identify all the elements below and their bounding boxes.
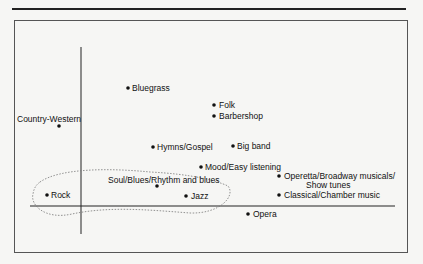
label-opera: Opera xyxy=(253,209,277,219)
label-soul-blues: Soul/Blues/Rhythm and blues xyxy=(108,175,220,185)
label-big-band: Big band xyxy=(237,141,271,151)
label-hymns-gospel: Hymns/Gospel xyxy=(157,142,213,152)
label-mood-easy-listening: Mood/Easy listening xyxy=(205,162,281,172)
label-jazz: Jazz xyxy=(191,191,208,201)
label-folk: Folk xyxy=(219,100,236,110)
label-classical: Classical/Chamber music xyxy=(284,190,381,200)
label-bluegrass: Bluegrass xyxy=(132,83,170,93)
label-country-western: Country-Western xyxy=(17,114,81,124)
label-barbershop: Barbershop xyxy=(219,111,263,121)
perceptual-map: Country-Western Bluegrass Folk Barbersho… xyxy=(0,0,423,264)
label-operetta-line2: Show tunes xyxy=(306,180,350,190)
label-rock: Rock xyxy=(51,190,71,200)
